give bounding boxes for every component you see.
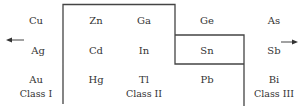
element-ga: Ga [137,16,151,26]
class-ii-label: Class II [126,89,162,99]
element-hg: Hg [88,75,103,85]
element-in: In [139,46,149,56]
element-as: As [268,16,280,26]
element-tl: Tl [139,75,149,85]
element-sb: Sb [267,46,280,56]
element-cu: Cu [29,16,43,26]
element-sn: Sn [200,46,213,56]
class-i-label: Class I [20,89,53,99]
left-arrow-icon [6,38,24,43]
element-pb: Pb [200,75,213,85]
class-iii-label: Class III [254,89,294,99]
element-zn: Zn [89,16,102,26]
element-cd: Cd [89,46,103,56]
element-ag: Ag [31,46,45,56]
element-au: Au [29,75,43,85]
right-arrow-icon [281,40,298,45]
element-bi: Bi [269,75,280,85]
element-ge: Ge [200,16,214,26]
